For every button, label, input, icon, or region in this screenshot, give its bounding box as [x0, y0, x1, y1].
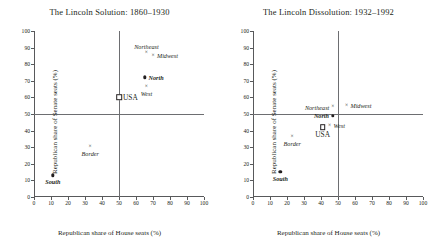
x-tick-label-left: 50 [116, 200, 122, 206]
x-tick-label-right: 60 [352, 200, 358, 206]
data-label-south-right: South [273, 175, 288, 182]
reference-line-vertical-right [338, 31, 339, 197]
x-tick-label-left: 10 [48, 200, 54, 206]
y-tick-right [250, 131, 253, 132]
y-tick-right [250, 81, 253, 82]
data-label-midwest-left: Midwest [157, 52, 178, 59]
y-tick-left [31, 48, 34, 49]
y-axis-title-left: Republican share of Senate seats (%) [51, 70, 59, 174]
y-tick-label-right: 40 [243, 128, 249, 134]
y-tick-left [31, 114, 34, 115]
panel-lincoln-solution: The Lincoln Solution: 1860–1930 01020304… [0, 0, 219, 243]
data-point-south-left [51, 174, 54, 177]
data-label-south-left: South [45, 178, 60, 185]
x-tick-label-left: 70 [150, 200, 156, 206]
panel-title-left: The Lincoln Solution: 1860–1930 [0, 7, 219, 17]
y-tick-label-right: 30 [243, 144, 249, 150]
data-label-usa-left: USA [123, 93, 138, 102]
x-axis-title-left: Republican share of House seats (%) [0, 229, 219, 237]
x-tick-label-right: 70 [369, 200, 375, 206]
y-tick-label-right: 60 [243, 94, 249, 100]
data-point-midwest-left: × [151, 53, 154, 59]
y-tick-left [31, 31, 34, 32]
y-tick-label-right: 50 [243, 111, 249, 117]
y-tick-label-left: 90 [24, 45, 30, 51]
y-tick-label-right: 10 [243, 177, 249, 183]
y-tick-right [250, 147, 253, 148]
data-label-usa-right: USA [315, 130, 330, 139]
y-tick-right [250, 114, 253, 115]
y-tick-label-right: 20 [243, 161, 249, 167]
y-tick-label-left: 0 [27, 194, 30, 200]
x-tick-label-left: 40 [99, 200, 105, 206]
y-tick-label-left: 100 [22, 28, 30, 34]
y-tick-label-left: 60 [24, 94, 30, 100]
data-point-usa-left [116, 95, 122, 101]
y-tick-left [31, 64, 34, 65]
x-tick-label-right: 80 [386, 200, 392, 206]
y-tick-right [250, 97, 253, 98]
reference-line-vertical-left [119, 31, 120, 197]
y-tick-label-left: 20 [24, 161, 30, 167]
x-tick-label-right: 50 [335, 200, 341, 206]
data-label-north-right: North [314, 112, 329, 119]
x-tick-label-left: 100 [200, 200, 208, 206]
data-point-midwest-right: × [345, 103, 348, 109]
two-panel-scatter-figure: The Lincoln Solution: 1860–1930 01020304… [0, 0, 438, 243]
y-tick-label-left: 50 [24, 111, 30, 117]
y-axis-title-right: Republican share of Senate seats (%) [270, 70, 278, 174]
data-point-west-right: × [328, 123, 331, 129]
y-tick-right [250, 180, 253, 181]
panel-lincoln-dissolution: The Lincoln Dissolution: 1932–1992 01020… [219, 0, 438, 243]
y-tick-right [250, 48, 253, 49]
y-tick-right [250, 64, 253, 65]
x-tick-label-right: 40 [318, 200, 324, 206]
plot-area-right: 0102030405060708090100010203040506070809… [253, 31, 423, 197]
y-tick-label-right: 100 [241, 28, 249, 34]
data-point-northeast-right: × [331, 105, 334, 111]
data-point-north-left [143, 76, 146, 79]
x-tick-label-right: 100 [419, 200, 427, 206]
x-tick-label-right: 20 [284, 200, 290, 206]
data-point-north-right [331, 114, 334, 117]
y-tick-right [250, 31, 253, 32]
data-label-north-left: North [149, 74, 164, 81]
y-tick-left [31, 164, 34, 165]
x-tick-label-left: 30 [82, 200, 88, 206]
y-tick-label-right: 80 [243, 61, 249, 67]
y-tick-label-right: 70 [243, 78, 249, 84]
x-tick-label-right: 0 [252, 200, 255, 206]
y-tick-label-left: 80 [24, 61, 30, 67]
y-tick-label-left: 70 [24, 78, 30, 84]
plot-area-left: 0102030405060708090100010203040506070809… [34, 31, 204, 197]
x-tick-label-left: 60 [133, 200, 139, 206]
x-tick-label-right: 10 [267, 200, 273, 206]
x-tick-label-right: 90 [403, 200, 409, 206]
y-tick-left [31, 97, 34, 98]
y-tick-left [31, 81, 34, 82]
panel-title-right: The Lincoln Dissolution: 1932–1992 [219, 7, 438, 17]
y-tick-label-right: 0 [246, 194, 249, 200]
y-tick-label-right: 90 [243, 45, 249, 51]
data-label-midwest-right: Midwest [351, 102, 372, 109]
x-tick-label-left: 80 [167, 200, 173, 206]
data-label-northeast-right: Northeast [305, 104, 329, 111]
data-point-south-right [278, 170, 281, 173]
x-tick-label-left: 0 [33, 200, 36, 206]
data-label-northeast-left: Northeast [134, 43, 158, 50]
y-tick-label-left: 10 [24, 177, 30, 183]
x-axis-title-right: Republican share of House seats (%) [219, 229, 438, 237]
y-tick-label-left: 30 [24, 144, 30, 150]
data-label-border-left: Border [82, 150, 99, 157]
y-tick-label-left: 40 [24, 128, 30, 134]
y-tick-left [31, 147, 34, 148]
y-tick-right [250, 164, 253, 165]
data-label-border-right: Border [284, 140, 301, 147]
y-tick-left [31, 180, 34, 181]
x-tick-label-left: 20 [65, 200, 71, 206]
x-tick-label-left: 90 [184, 200, 190, 206]
data-label-west-right: West [334, 122, 345, 129]
x-tick-label-right: 30 [301, 200, 307, 206]
data-point-northeast-left: × [145, 50, 148, 56]
data-label-west-left: West [141, 90, 152, 97]
